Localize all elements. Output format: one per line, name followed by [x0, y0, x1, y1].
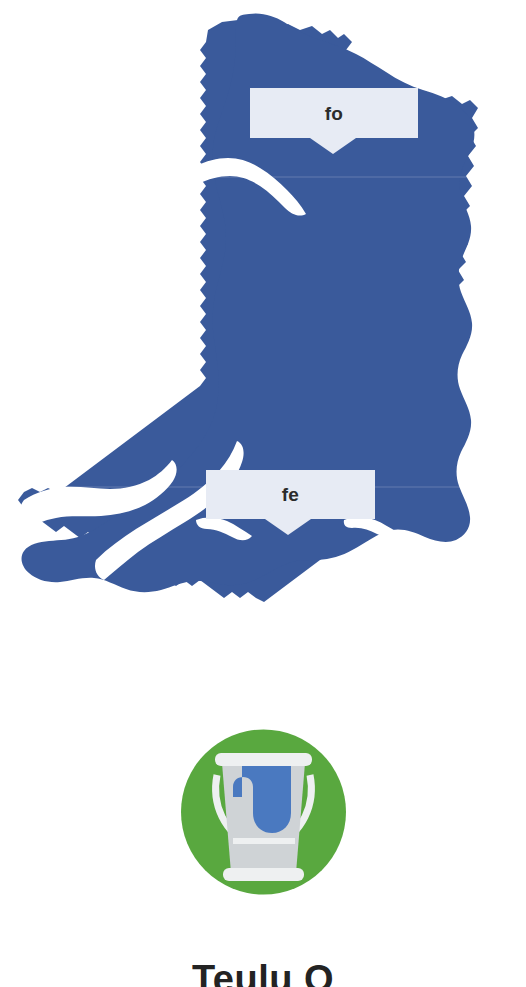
dee-estuary-cutout [407, 20, 456, 46]
callout-fe[interactable]: fe [206, 470, 375, 519]
paint-bucket-badge[interactable] [181, 701, 346, 923]
callout-fe-pointer [265, 519, 311, 535]
page-caption: Teulu O [0, 960, 526, 987]
bucket-base-icon [223, 868, 304, 881]
callout-fo-pointer [310, 138, 356, 154]
callout-fo-label: fo [325, 104, 343, 123]
callout-fo[interactable]: fo [250, 88, 418, 138]
page-root: fo fe Teulu O [0, 0, 526, 987]
bucket-rim-icon [215, 753, 312, 766]
callout-fe-label: fe [282, 485, 299, 504]
